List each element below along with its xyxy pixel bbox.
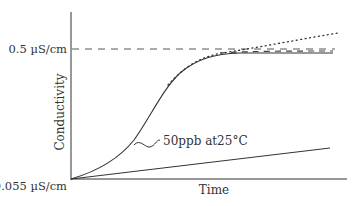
annotation-text: 50ppb at25°C — [163, 134, 248, 148]
y-axis-title: Conductivity — [53, 73, 67, 150]
conductivity-chart: 50ppb at25°C 0.5 µS/cm 0.055 µS/cm Condu… — [0, 0, 359, 206]
annotation-leader — [134, 140, 160, 147]
series-baseline-line — [71, 148, 330, 179]
y-tick-bottom: 0.055 µS/cm — [0, 179, 67, 193]
series-dotted-curve — [168, 33, 338, 85]
x-axis-title: Time — [199, 183, 229, 197]
series-50ppb-curve — [71, 53, 333, 179]
y-tick-top: 0.5 µS/cm — [8, 42, 67, 56]
